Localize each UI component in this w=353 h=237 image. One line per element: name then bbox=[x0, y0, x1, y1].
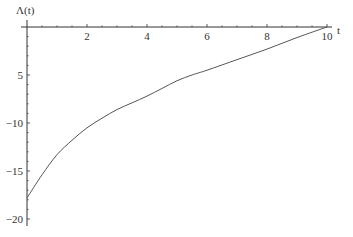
x-axis-label: t bbox=[337, 24, 340, 36]
y-tick-label: −20 bbox=[6, 213, 24, 225]
line-chart: 2468105−10−15−20 Λ(t) t bbox=[0, 0, 353, 237]
series-line bbox=[27, 27, 327, 198]
x-tick-label: 4 bbox=[144, 30, 150, 42]
x-tick-label: 8 bbox=[264, 30, 270, 42]
y-tick-label: −10 bbox=[6, 117, 24, 129]
x-tick-label: 2 bbox=[84, 30, 90, 42]
tick-labels: 2468105−10−15−20 bbox=[6, 30, 333, 225]
ticks bbox=[27, 24, 327, 219]
axes bbox=[21, 20, 332, 226]
x-tick-label: 6 bbox=[204, 30, 210, 42]
y-tick-label: −15 bbox=[6, 165, 24, 177]
x-tick-label: 10 bbox=[322, 30, 334, 42]
y-axis-label: Λ(t) bbox=[16, 4, 35, 17]
y-tick-label: 5 bbox=[18, 69, 24, 81]
